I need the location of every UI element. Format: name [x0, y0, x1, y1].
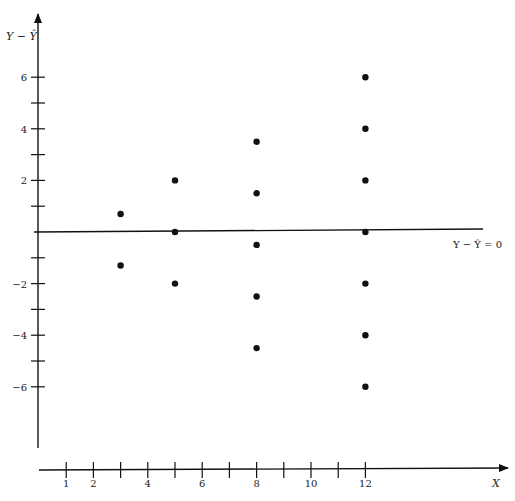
- y-axis-title: Y − Ŷ: [6, 29, 38, 43]
- data-point: [362, 126, 368, 132]
- data-point: [362, 384, 368, 390]
- data-point: [362, 74, 368, 80]
- data-point: [253, 242, 259, 248]
- y-tick-label: 6: [21, 72, 27, 83]
- data-point: [117, 211, 123, 217]
- data-point: [362, 332, 368, 338]
- data-point: [362, 280, 368, 286]
- y-tick-label: −6: [12, 382, 27, 393]
- data-point: [253, 139, 259, 145]
- y-tick-label: −4: [12, 330, 27, 341]
- y-tick-label: 4: [21, 124, 27, 135]
- data-point: [172, 229, 178, 235]
- y-tick-label: −2: [12, 279, 27, 290]
- x-tick-label: 6: [199, 478, 205, 489]
- data-point: [362, 229, 368, 235]
- data-point: [253, 345, 259, 351]
- zero-line-label: Y − Ŷ = 0: [452, 239, 502, 250]
- x-tick-label: 10: [305, 478, 318, 489]
- x-axis-ticks: 124681012: [63, 462, 372, 489]
- x-axis-title: X: [491, 477, 501, 490]
- residual-scatter-plot: −6−4−2246 Y − Ŷ Y − Ŷ = 0 124681012 X: [0, 0, 515, 501]
- zero-reference-line: [34, 229, 483, 232]
- x-tick-label: 4: [145, 478, 151, 489]
- data-points: [117, 74, 368, 390]
- data-point: [253, 293, 259, 299]
- data-point: [172, 177, 178, 183]
- data-point: [362, 177, 368, 183]
- y-tick-label: 2: [21, 175, 27, 186]
- x-tick-label: 1: [63, 478, 69, 489]
- x-tick-label: 12: [359, 478, 372, 489]
- x-tick-label: 2: [90, 478, 96, 489]
- data-point: [117, 262, 123, 268]
- data-point: [253, 190, 259, 196]
- data-point: [172, 280, 178, 286]
- x-axis: [39, 468, 508, 470]
- x-tick-label: 8: [253, 478, 259, 489]
